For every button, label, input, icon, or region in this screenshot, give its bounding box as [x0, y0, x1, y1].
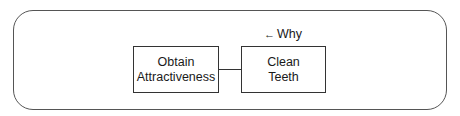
node-obtain-attractiveness: Obtain Attractiveness — [133, 46, 219, 93]
why-annotation: ← Why — [264, 27, 302, 41]
left-arrow-icon: ← — [264, 28, 275, 40]
node-label: Clean Teeth — [267, 55, 300, 85]
node-clean-teeth: Clean Teeth — [241, 46, 326, 93]
why-label: Why — [277, 27, 302, 41]
connector-line — [219, 69, 241, 70]
node-label: Obtain Attractiveness — [137, 55, 216, 85]
diagram-frame — [13, 10, 447, 110]
